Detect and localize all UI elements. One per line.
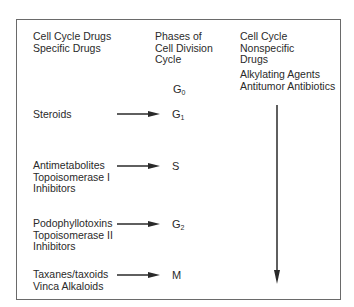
arrow-steroids-to-g1	[117, 111, 160, 117]
arrow-antimetabolites-to-s	[117, 163, 160, 169]
arrow-taxanes-to-m	[117, 272, 160, 278]
arrows-layer	[0, 0, 354, 307]
arrow-podophyllotoxins-to-g2	[117, 221, 160, 227]
arrow-nonspecific-all-phases	[274, 105, 280, 284]
